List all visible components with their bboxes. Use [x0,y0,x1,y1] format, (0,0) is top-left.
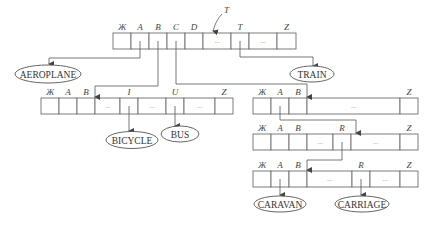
trie-node-node-c: ЖAB...Z [253,87,418,114]
cell-letter-label: C [173,22,180,32]
word-label: BUS [171,130,189,140]
cell-letter-label: A [276,87,283,97]
node-cell [289,171,307,187]
node-cell [59,98,77,114]
trie-node-root: ЖABCD...T...Z [113,22,296,49]
cell-letter-label: D [190,22,198,32]
cell-letter-label: Ж [257,87,267,97]
cell-letter-label: B [295,160,301,170]
node-cell [185,33,203,49]
node-cell [215,98,233,114]
ellipsis-cell-text: ... [197,102,203,110]
ellipsis-cell-text: ... [260,37,266,45]
trie-svg: ЖABCD...T...ZЖAB...I...U...ZЖAB...ZЖAB..… [0,0,437,225]
cell-letter-label: T [237,22,243,32]
node-cell [253,98,271,114]
ellipsis-cell-text: ... [351,102,357,110]
cell-letter-label: B [155,22,161,32]
node-cell [400,171,418,187]
node-cell [253,134,271,150]
cell-letter-label: R [357,160,364,170]
trie-node-node-b: ЖAB...I...U...Z [41,87,233,114]
cell-letter-label: Z [284,22,290,32]
node-cell [253,171,271,187]
ellipsis-cell-text: ... [149,102,155,110]
word-caravan: CARAVAN [254,196,306,212]
cell-letter-label: Z [406,123,412,133]
ellipsis-cell-text: ... [214,37,220,45]
node-cell [400,98,418,114]
word-train: TRAIN [290,66,334,82]
cell-letter-label: Ж [117,22,127,32]
node-cell [41,98,59,114]
cell-letter-label: A [276,123,283,133]
word-carriage: CARRIAGE [335,196,389,212]
cell-letter-label: A [276,160,283,170]
node-cell [113,33,131,49]
ellipsis-cell-text: ... [373,138,379,146]
word-bus: BUS [161,126,199,142]
node-cell [289,134,307,150]
trie-node-node-car: ЖAB...R...Z [253,160,418,187]
node-cell [77,98,95,114]
word-aeroplane: AEROPLANE [15,65,81,83]
ellipsis-cell-text: ... [105,102,111,110]
ellipsis-cell-text: ... [317,138,323,146]
cell-letter-label: A [64,87,71,97]
cell-letter-label: Ж [257,160,267,170]
pointer-arrow [213,14,222,31]
cell-letter-label: Ж [257,123,267,133]
node-cell [400,134,418,150]
cell-letter-label: A [136,22,143,32]
cell-letter-label: Z [406,160,412,170]
node-cell [271,134,289,150]
cell-letter-label: B [295,123,301,133]
word-label: BICYCLE [112,136,153,146]
node-cell [289,98,307,114]
cell-letter-label: R [338,123,345,133]
word-label: CARAVAN [258,200,303,210]
word-label: TRAIN [297,70,326,80]
trie-diagram: ЖABCD...T...ZЖAB...I...U...ZЖAB...ZЖAB..… [0,0,437,225]
cell-letter-label: Ж [45,87,55,97]
ellipsis-cell-text: ... [327,175,333,183]
word-label: AEROPLANE [20,70,77,80]
cell-letter-label: Z [406,87,412,97]
cell-letter-label: I [127,87,132,97]
cell-letter-label: B [295,87,301,97]
cell-letter-label: Z [221,87,227,97]
cell-letter-label: U [172,87,179,97]
word-label: CARRIAGE [338,200,387,210]
pointer-label: T [224,5,230,15]
ellipsis-cell-text: ... [382,175,388,183]
cell-letter-label: B [83,87,89,97]
word-bicycle: BICYCLE [106,132,158,149]
node-cell [277,33,296,49]
trie-node-node-ca: ЖAB...R...Z [253,123,418,150]
